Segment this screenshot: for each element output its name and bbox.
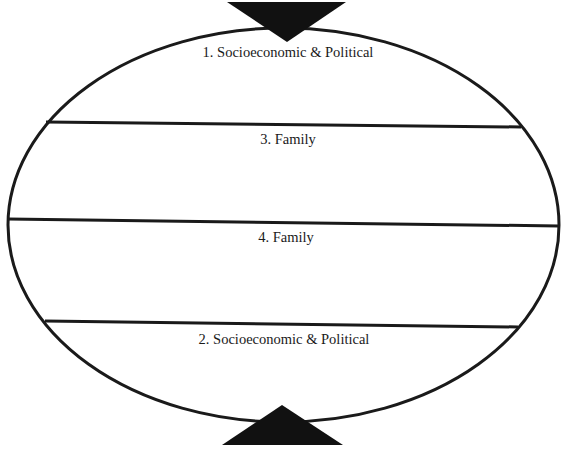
divider-line-2 — [8, 219, 559, 226]
up-arrow-icon — [222, 405, 343, 445]
band-label-4: 2. Socioeconomic & Political — [199, 331, 370, 348]
divider-line-1 — [46, 122, 521, 127]
diagram-canvas: 1. Socioeconomic & Political 3. Family 4… — [0, 0, 568, 450]
down-arrow-icon — [227, 2, 346, 42]
band-label-1: 1. Socioeconomic & Political — [203, 44, 374, 61]
band-label-3: 4. Family — [258, 229, 314, 246]
divider-line-3 — [45, 321, 518, 327]
diagram-graphic — [0, 0, 568, 450]
band-label-2: 3. Family — [260, 131, 316, 148]
